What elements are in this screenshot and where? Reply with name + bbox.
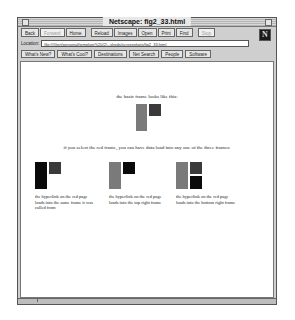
whats-new-button[interactable]: What's New? xyxy=(21,50,55,58)
directory-buttons: What's New? What's Cool? Destinations Ne… xyxy=(21,50,211,58)
intro-text: the basic frame looks like this: xyxy=(21,94,273,99)
location-input[interactable]: file:///Gert/personal/template%20(2)--sh… xyxy=(41,40,249,47)
window-title: Netscape: fig2_33.html xyxy=(103,17,191,26)
page-content: the basic frame looks like this: if you … xyxy=(20,61,274,298)
top-right-frame xyxy=(49,162,61,174)
forward-button[interactable]: Forward xyxy=(40,28,65,37)
left-frame xyxy=(35,162,47,189)
example-caption-3: the hyperlink on the red page loads into… xyxy=(176,194,238,205)
toolbar-spacer xyxy=(87,28,90,38)
navigation-toolbar: Back Forward Home Reload Images Open Pri… xyxy=(21,28,215,38)
print-button[interactable]: Print xyxy=(158,28,175,37)
toolbar-spacer xyxy=(194,28,197,38)
netscape-logo-icon: N xyxy=(259,29,271,41)
browser-window: Netscape: fig2_33.html Back Forward Home… xyxy=(17,17,277,305)
net-search-button[interactable]: Net Search xyxy=(129,50,160,58)
whats-cool-button[interactable]: What's Cool? xyxy=(57,50,92,58)
left-frame xyxy=(109,162,121,189)
top-right-frame xyxy=(149,104,161,116)
find-button[interactable]: Find xyxy=(176,28,193,37)
left-frame xyxy=(176,162,188,189)
left-frame xyxy=(136,104,147,131)
status-bar xyxy=(18,298,276,304)
people-button[interactable]: People xyxy=(161,50,183,58)
close-box-icon[interactable] xyxy=(22,19,29,26)
stop-button[interactable]: Stop xyxy=(198,28,215,37)
images-button[interactable]: Images xyxy=(114,28,137,37)
resize-grip-icon[interactable] xyxy=(254,299,274,303)
software-button[interactable]: Software xyxy=(185,50,211,58)
destinations-button[interactable]: Destinations xyxy=(94,50,127,58)
explanation-text: if you select the red frame, you can hav… xyxy=(21,145,273,150)
example-caption-2: the hyperlink on the red page loads into… xyxy=(109,194,171,205)
home-button[interactable]: Home xyxy=(66,28,86,37)
top-right-frame xyxy=(123,162,135,174)
location-label: Location: xyxy=(21,41,39,46)
location-bar: Location: file:///Gert/personal/template… xyxy=(21,40,249,47)
back-button[interactable]: Back xyxy=(21,28,39,37)
title-bar[interactable]: Netscape: fig2_33.html xyxy=(18,18,276,27)
security-indicator xyxy=(21,299,38,302)
reload-button[interactable]: Reload xyxy=(91,28,113,37)
open-button[interactable]: Open xyxy=(138,28,157,37)
bottom-right-frame xyxy=(190,176,202,189)
top-right-frame xyxy=(190,162,202,174)
example-caption-1: the hyperlink on the red page loads into… xyxy=(35,194,97,211)
zoom-box-icon[interactable] xyxy=(265,19,272,26)
